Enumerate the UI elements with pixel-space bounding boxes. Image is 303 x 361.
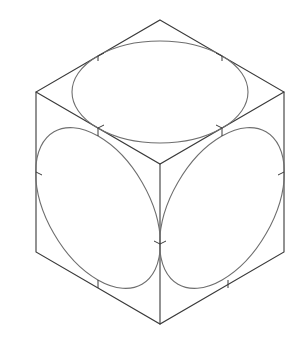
tick-top-upper-right (216, 53, 222, 61)
cube-edges (36, 20, 284, 324)
right-face-ellipse (134, 106, 303, 309)
tick-right-outer-edge (278, 172, 284, 175)
diagram-svg (0, 0, 303, 361)
tick-left-outer-edge (36, 172, 42, 175)
tick-top-upper-left (98, 53, 104, 61)
isometric-cube-diagram (0, 0, 303, 361)
